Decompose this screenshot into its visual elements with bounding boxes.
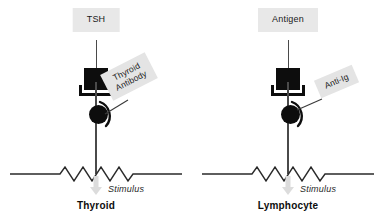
antibody-label-thyroid-antibody: Thyroid Antibody: [100, 52, 158, 100]
receptor-circle-icon: [89, 105, 108, 124]
ligand-connector-line: [288, 40, 289, 68]
ligand-label-tsh: TSH: [73, 8, 120, 32]
stimulus-label-lymphocyte: Stimulus: [300, 184, 336, 194]
cell-name-thyroid: Thyroid: [77, 200, 115, 211]
receptor-diagram-figure: TSH Thyroid Antibody Stimulus Thyroid An…: [0, 0, 384, 222]
stimulus-arrow-icon: [89, 176, 103, 196]
cell-name-lymphocyte: Lymphocyte: [258, 200, 319, 211]
ligand-connector-line: [96, 40, 97, 68]
ligand-label-antigen: Antigen: [258, 8, 318, 32]
panel-thyroid: TSH Thyroid Antibody Stimulus Thyroid: [0, 0, 192, 222]
panel-lymphocyte: Antigen Anti-Ig Stimulus Lymphocyte: [192, 0, 384, 222]
antibody-label-anti-ig: Anti-Ig: [314, 65, 359, 99]
stimulus-label-thyroid: Stimulus: [108, 184, 144, 194]
receptor-circle-icon: [281, 105, 300, 124]
antibody-leader-line: [296, 96, 324, 112]
stimulus-arrow-icon: [281, 176, 295, 196]
